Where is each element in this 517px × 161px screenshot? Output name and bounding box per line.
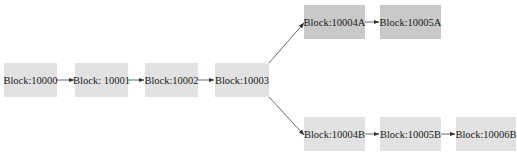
edge-10003-10004A: [269, 23, 304, 63]
block-10004a: Block:10004A: [304, 5, 365, 39]
block-10000: Block:10000: [4, 63, 57, 97]
block-10001: Block: 10001: [75, 63, 128, 97]
block-10005a: Block:10005A: [380, 5, 441, 39]
block-10005b: Block:10005B: [380, 117, 441, 151]
block-10004b: Block:10004B: [304, 117, 365, 151]
edge-10003-10004B: [269, 97, 304, 135]
block-10003: Block:10003: [215, 63, 269, 97]
block-10002: Block:10002: [145, 63, 198, 97]
blockchain-fork-diagram: Block:10000 Block: 10001 Block:10002 Blo…: [0, 0, 517, 161]
block-10006b: Block:10006B: [456, 117, 516, 151]
